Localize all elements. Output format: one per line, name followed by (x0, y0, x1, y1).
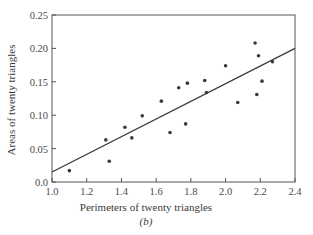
x-tick-label: 2.2 (254, 186, 267, 197)
data-points (68, 41, 275, 172)
y-tick-label: 0.15 (30, 77, 48, 88)
y-axis-label: Areas of twenty triangles (5, 45, 17, 156)
data-point (260, 79, 264, 83)
data-point (257, 54, 261, 58)
data-point (68, 169, 72, 173)
subfigure-label: (b) (140, 215, 153, 228)
x-tick-label: 2.4 (288, 186, 302, 197)
x-tick-label: 1.8 (184, 186, 197, 197)
data-point (104, 138, 108, 142)
y-tick-label: 0.25 (30, 10, 48, 21)
plot-border (52, 15, 295, 182)
x-tick-label: 1.6 (150, 186, 163, 197)
data-point (130, 136, 134, 140)
x-axis-label: Perimeters of twenty triangles (80, 201, 212, 213)
data-point (236, 101, 240, 105)
plot-frame (52, 15, 295, 182)
data-point (160, 99, 164, 103)
data-point (205, 91, 209, 95)
data-point (271, 60, 275, 64)
x-axis-ticks: 1.01.21.41.61.82.02.22.4 (45, 178, 302, 197)
scatter-chart: 1.01.21.41.61.82.02.22.4 0.00.050.100.15… (0, 0, 313, 235)
fitted-line (52, 48, 295, 172)
x-tick-label: 1.4 (115, 186, 129, 197)
regression-line (52, 48, 295, 172)
data-point (186, 81, 190, 85)
data-point (177, 86, 181, 90)
data-point (107, 159, 111, 163)
x-tick-label: 1.2 (80, 186, 93, 197)
y-tick-label: 0.20 (30, 43, 48, 54)
data-point (123, 125, 127, 129)
data-point (168, 131, 172, 135)
data-point (255, 93, 259, 97)
data-point (224, 64, 228, 68)
x-tick-label: 2.0 (219, 186, 232, 197)
y-tick-label: 0.05 (30, 144, 48, 155)
data-point (203, 79, 207, 83)
data-point (140, 114, 144, 118)
data-point (253, 41, 257, 45)
y-tick-label: 0.10 (30, 110, 48, 121)
y-tick-label: 0.0 (35, 177, 48, 188)
data-point (184, 122, 188, 126)
